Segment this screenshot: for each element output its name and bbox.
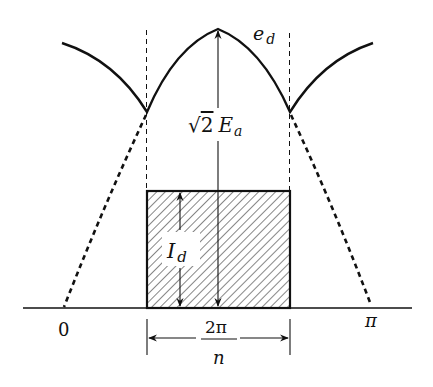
pi-label: π [364,310,378,331]
width-numerator-label: 2π [205,317,227,337]
rectifier-waveform-diagram: ed √2Ea Id 0 π 2π n [0,0,433,387]
voltage-curve-label: ed [253,22,275,47]
width-denominator-label: n [213,347,225,368]
right-dotted-continuation [291,115,371,305]
left-dotted-continuation [64,115,146,307]
origin-label: 0 [58,319,69,340]
peak-amplitude-label: √2Ea [188,113,242,139]
